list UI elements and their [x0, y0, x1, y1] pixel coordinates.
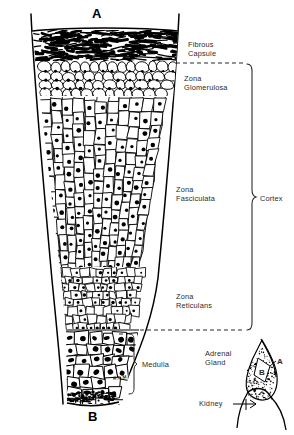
zona-fasciculata-region	[36, 94, 178, 279]
adrenal-histology-illustration	[0, 0, 294, 435]
marker-b-bottom: B	[88, 409, 97, 424]
label-fibrous-capsule: Fibrous Capsule	[188, 40, 216, 59]
inset-marker-b: B	[259, 368, 265, 377]
label-kidney: Kidney	[199, 399, 223, 408]
fibrous-capsule-region	[28, 28, 194, 66]
figure-canvas: A B R.L.M. Fibrous Capsule Zona Glomerul…	[0, 0, 294, 435]
zona-reticularis-region	[54, 264, 156, 336]
marker-a-top: A	[92, 6, 101, 21]
inset-marker-a: A	[277, 357, 283, 366]
label-zona-fasciculata: Zona Fasciculata	[176, 185, 215, 204]
cortex-brace	[247, 64, 256, 330]
label-zona-reticularis: Zona Reticulans	[176, 292, 212, 311]
label-zona-glomerulosa: Zona Glomerulosa	[184, 74, 228, 93]
label-cortex: Cortex	[260, 194, 283, 203]
label-medulla: Medulla	[142, 360, 169, 369]
kidney-pointer-arrow	[233, 399, 256, 410]
label-adrenal-gland: Adrenal Gland	[205, 349, 232, 368]
zona-glomerulosa-region	[30, 58, 182, 102]
inset-adrenal-kidney	[233, 339, 286, 430]
